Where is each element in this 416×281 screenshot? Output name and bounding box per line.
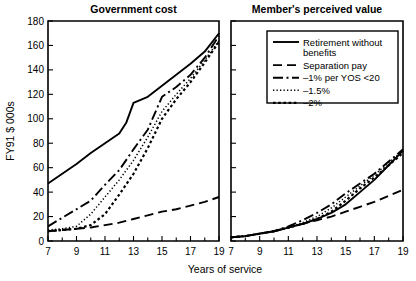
legend-label-2: –1% per YOS <20 bbox=[303, 72, 380, 83]
panel-title-1: Member's perceived value bbox=[252, 3, 382, 15]
x-tick-label-13: 13 bbox=[128, 246, 140, 257]
y-tick-label-80: 80 bbox=[33, 138, 45, 149]
legend: Retirement withoutbenefitsSeparation pay… bbox=[267, 31, 398, 108]
series-line-2 bbox=[231, 149, 403, 237]
y-tick-label-20: 20 bbox=[33, 211, 45, 222]
legend-label-3: –1.5% bbox=[303, 85, 330, 96]
x-tick-label-17: 17 bbox=[185, 246, 197, 257]
series-line-2 bbox=[48, 36, 219, 227]
panel-government-cost: Government cost0204060801001201401601807… bbox=[27, 3, 225, 257]
x-tick-label-7: 7 bbox=[45, 246, 51, 257]
y-tick-label-140: 140 bbox=[27, 64, 44, 75]
y-tick-label-60: 60 bbox=[33, 162, 45, 173]
y-tick-label-180: 180 bbox=[27, 16, 44, 27]
x-tick-label-15: 15 bbox=[156, 246, 168, 257]
x-tick-label-15: 15 bbox=[340, 246, 352, 257]
legend-label-1: Separation pay bbox=[303, 60, 367, 71]
line-chart: Government cost0204060801001201401601807… bbox=[0, 0, 416, 281]
x-axis-title: Years of service bbox=[188, 263, 262, 275]
y-tick-label-0: 0 bbox=[38, 236, 44, 247]
axis-frame-0 bbox=[48, 21, 219, 241]
chart-figure: Government cost0204060801001201401601807… bbox=[0, 0, 416, 281]
x-tick-label-9: 9 bbox=[74, 246, 80, 257]
series-line-3 bbox=[48, 41, 219, 230]
legend-label-0: Retirement without bbox=[303, 37, 383, 48]
x-tick-label-17: 17 bbox=[369, 246, 381, 257]
x-tick-label-13: 13 bbox=[311, 246, 323, 257]
x-tick-label-11: 11 bbox=[100, 246, 111, 257]
panel-title-0: Government cost bbox=[90, 3, 177, 15]
y-tick-label-120: 120 bbox=[27, 89, 44, 100]
x-tick-label-19: 19 bbox=[213, 246, 225, 257]
series-line-1 bbox=[48, 197, 219, 231]
legend-label-4: –2% bbox=[303, 97, 323, 108]
y-axis-title: FY91 $ 000s bbox=[4, 101, 16, 161]
legend-label-0-line2: benefits bbox=[303, 47, 337, 58]
x-tick-label-11: 11 bbox=[283, 246, 294, 257]
series-line-0 bbox=[231, 151, 403, 238]
series-line-4 bbox=[231, 153, 403, 237]
y-tick-label-100: 100 bbox=[27, 113, 44, 124]
series-line-3 bbox=[231, 151, 403, 238]
x-tick-label-7: 7 bbox=[228, 246, 234, 257]
x-tick-label-19: 19 bbox=[397, 246, 409, 257]
y-tick-label-160: 160 bbox=[27, 40, 44, 51]
x-tick-label-9: 9 bbox=[257, 246, 263, 257]
y-tick-label-40: 40 bbox=[33, 187, 45, 198]
